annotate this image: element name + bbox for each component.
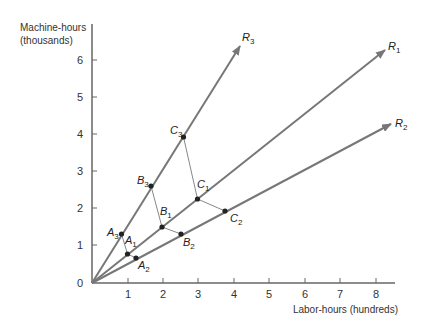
x-tick-label: 5 [266,288,272,300]
x-axis-title: Labor-hours (hundreds) [293,304,398,315]
y-tick-label: 2 [77,202,83,214]
label-r2: R2 [395,117,408,132]
x-tick-label: 3 [195,288,201,300]
point-a1 [125,251,130,256]
x-tick-label: 1 [125,288,131,300]
x-tick-label: 4 [231,288,237,300]
label-a2: A2 [137,259,150,274]
label-b2: B2 [183,236,195,251]
connector-b1-b2 [162,227,181,234]
y-axis-title-line2: (thousands) [20,35,73,46]
point-b1 [159,224,164,229]
x-tick-label: 7 [337,288,343,300]
point-c1 [195,196,200,201]
y-tick-label: 6 [77,54,83,66]
x-tick-label: 6 [302,288,308,300]
label-a3: A3 [106,226,119,241]
label-r1: R1 [388,40,401,55]
point-b3 [148,183,153,188]
connector-c1-c2 [198,199,226,211]
label-c1: C1 [197,178,210,193]
y-axis-title-line1: Machine-hours [20,22,86,33]
label-c2: C2 [230,212,243,227]
label-r3: R3 [242,31,255,46]
isoquant-diagram: 1 2 3 4 5 6 0 1 2 3 4 5 6 7 8 Machine-ho… [0,0,426,331]
connector-c3-c1 [184,137,198,199]
origin-label: 0 [77,277,83,289]
label-c3: C3 [170,124,183,139]
rays [92,46,391,283]
y-tick-label: 5 [77,91,83,103]
y-tick-label: 3 [77,165,83,177]
x-tick-label: 2 [160,288,166,300]
x-tick-label: 8 [373,288,379,300]
y-tick-label: 1 [77,239,83,251]
label-a1: A1 [124,234,137,249]
y-tick-label: 4 [77,128,83,140]
ray-r3 [92,46,240,283]
point-c2 [222,208,227,213]
point-a3 [119,231,124,236]
label-b1: B1 [160,205,172,220]
ray-labels: R3 R1 R2 [242,31,408,132]
label-b3: B3 [137,174,149,189]
axes: 1 2 3 4 5 6 0 1 2 3 4 5 6 7 8 Machine-ho… [20,22,398,315]
